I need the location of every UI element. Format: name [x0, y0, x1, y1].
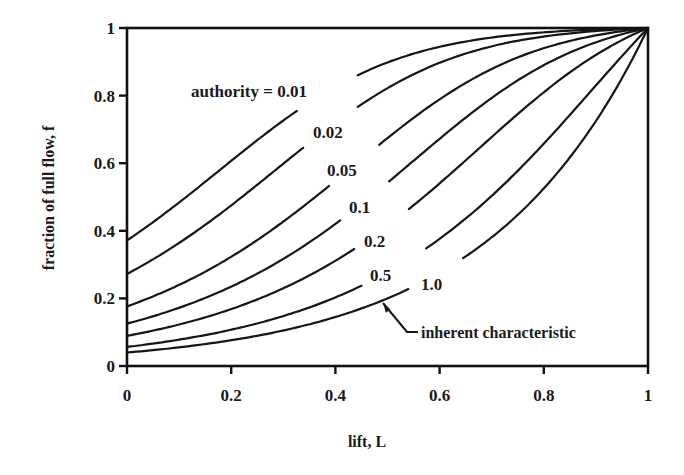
curve-label: 0.02	[313, 123, 343, 142]
curve-authority-0-02-left	[127, 148, 303, 274]
y-tick-label: 0.8	[94, 87, 115, 106]
y-axis-ticks: 00.20.40.60.81	[94, 19, 127, 376]
curve-authority-0-5-right	[426, 28, 648, 248]
curves-group	[127, 28, 648, 353]
x-tick-label: 0.6	[429, 386, 450, 405]
plot-frame	[127, 28, 648, 366]
x-axis-title: lift, L	[348, 433, 386, 450]
curve-label: 1.0	[421, 275, 442, 294]
curve-label: 0.2	[364, 232, 385, 251]
y-tick-label: 0.2	[94, 289, 115, 308]
x-axis-ticks: 00.20.40.60.81	[123, 366, 653, 405]
y-tick-label: 0.4	[94, 222, 116, 241]
valve-characteristic-chart: 00.20.40.60.81 00.20.40.60.81 authority …	[0, 0, 684, 475]
x-tick-label: 0.8	[533, 386, 554, 405]
annotation-leader-line	[383, 303, 418, 332]
curve-label: 0.5	[370, 266, 391, 285]
curve-authority-0-01-right	[358, 28, 648, 75]
curve-authority-0-1-right	[389, 28, 648, 181]
curve-authority-1-right	[463, 28, 648, 258]
y-axis-title: fraction of full flow, f	[40, 125, 57, 270]
curve-label: 0.1	[349, 198, 370, 217]
curve-authority-0-05-right	[379, 28, 648, 145]
curve-authority-0-2-right	[409, 28, 648, 209]
y-tick-label: 0.6	[94, 154, 115, 173]
x-tick-label: 1	[644, 386, 653, 405]
y-tick-label: 1	[107, 19, 116, 38]
x-tick-label: 0	[123, 386, 132, 405]
x-tick-label: 0.4	[325, 386, 347, 405]
curve-labels-group: authority = 0.010.020.050.10.20.51.0	[191, 82, 442, 294]
x-tick-label: 0.2	[221, 386, 242, 405]
y-tick-label: 0	[107, 357, 116, 376]
curve-label: 0.05	[327, 161, 357, 180]
curve-label: authority = 0.01	[191, 82, 307, 101]
annotation-inherent-characteristic: inherent characteristic	[421, 324, 576, 341]
